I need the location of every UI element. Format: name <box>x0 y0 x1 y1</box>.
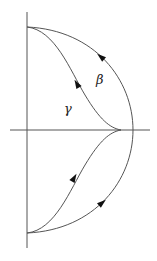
beta-label: β <box>95 72 104 87</box>
gamma-label: γ <box>64 101 72 116</box>
contour-diagram: γ β <box>0 0 157 261</box>
